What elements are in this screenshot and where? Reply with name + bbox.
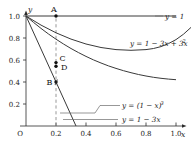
y-tick-label-4: 1.0: [9, 13, 20, 21]
x-tick-group: 0.2 0.4 0.6 0.8 1.0: [50, 123, 181, 139]
curve-label-cubic: y = (1 − x) 3: [121, 100, 164, 110]
x-axis-name-label: x: [181, 130, 186, 139]
point-label-D: D: [61, 63, 67, 72]
x-tick-label-2: 0.6: [110, 130, 122, 138]
curve-label-parabola-exponent: 2: [181, 38, 185, 44]
curve-line-slope: [26, 16, 76, 126]
x-tick-label-4: 1.0: [170, 130, 181, 138]
curve-label-cubic-text: y = (1 − x): [121, 101, 162, 110]
x-tick-label-0: 0.2: [50, 130, 61, 138]
point-label-A: A: [50, 5, 57, 14]
curve-label-parabola: y = 1 − 3x + 3x 2: [129, 38, 188, 48]
curve-label-y-equals-1: y = 1: [164, 12, 184, 21]
y-tick-label-0: 0.2: [9, 101, 20, 109]
point-marker-C: [54, 61, 57, 64]
point-marker-D: [54, 65, 57, 68]
y-tick-group: 0.2 0.4 0.6 0.8 1.0: [9, 13, 26, 109]
plot-svg: 0.2 0.4 0.6 0.8 1.0 0.2 0.4 0.6 0.8 1.0 …: [0, 0, 193, 146]
point-label-B: B: [47, 78, 53, 87]
point-marker-A: [54, 14, 57, 17]
x-tick-label-1: 0.4: [80, 130, 92, 138]
origin-label: O: [17, 130, 23, 138]
axis-group: [20, 11, 187, 128]
y-tick-label-2: 0.6: [9, 57, 21, 65]
y-tick-label-3: 0.8: [9, 35, 20, 43]
curve-label-parabola-text: y = 1 − 3x + 3x: [129, 39, 188, 48]
y-tick-label-1: 0.4: [9, 79, 21, 87]
x-axis-arrow-icon: [182, 124, 187, 128]
curve-label-cubic-exponent: 3: [161, 100, 164, 106]
leader-line-cubic: [60, 106, 120, 114]
curve-label-line-slope: y = 1 − 3x: [121, 115, 160, 124]
x-tick-label-3: 0.8: [140, 130, 151, 138]
graph-figure: 0.2 0.4 0.6 0.8 1.0 0.2 0.4 0.6 0.8 1.0 …: [0, 0, 193, 146]
y-axis-name-label: y: [27, 5, 33, 14]
